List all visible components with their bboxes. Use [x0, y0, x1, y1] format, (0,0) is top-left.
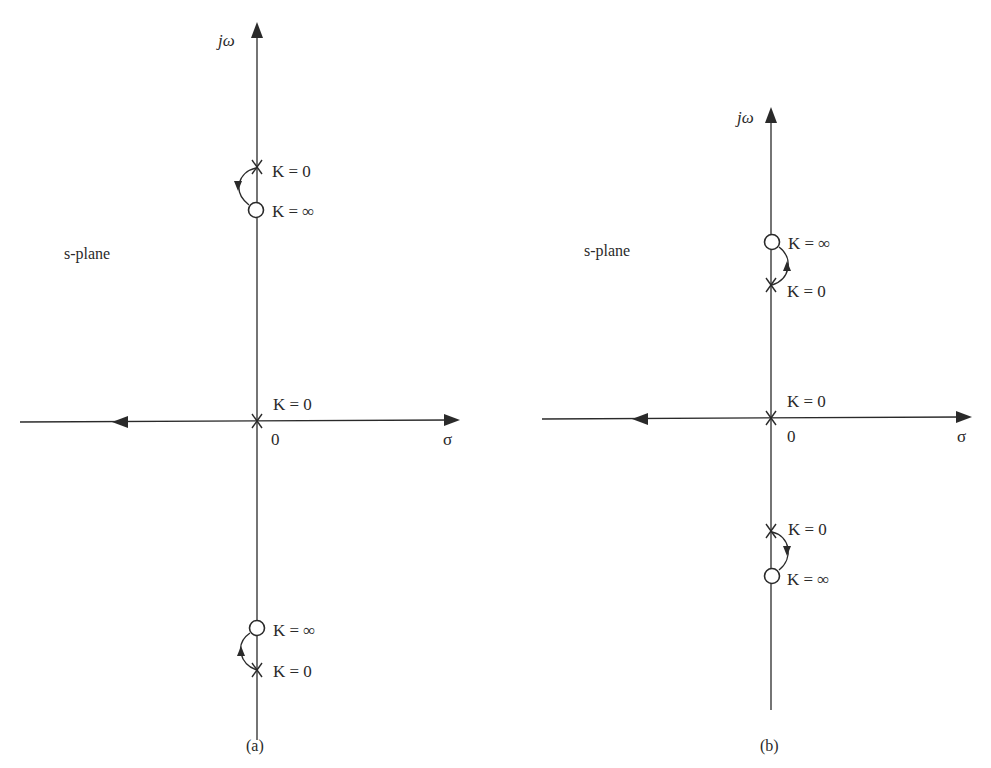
upper-pole-label: K = 0 [272, 162, 311, 181]
origin-pole-label: K = 0 [787, 392, 826, 411]
zero-marker-icon [249, 203, 264, 218]
zero-marker-icon [765, 235, 780, 250]
lower-zero-label: K = ∞ [787, 570, 829, 589]
root-locus-figure: jω σ 0 s-plane K = 0 K = 0 K = ∞ K = ∞ K… [0, 0, 991, 768]
zero-marker-icon [250, 621, 265, 636]
imag-axis-arrow-icon [765, 107, 777, 123]
locus-direction-arrow-icon [234, 181, 242, 191]
origin-pole-label: K = 0 [273, 395, 312, 414]
s-plane-label: s-plane [64, 245, 110, 263]
upper-zero-label: K = ∞ [272, 202, 314, 221]
panel-caption-b: (b) [760, 737, 779, 755]
sigma-axis-label: σ [957, 427, 966, 446]
real-axis-a [20, 420, 450, 422]
zero-marker-icon [765, 569, 780, 584]
jw-axis-label: jω [735, 108, 754, 127]
panel-caption-a: (a) [246, 737, 264, 755]
imag-axis-arrow-icon [251, 22, 263, 38]
locus-direction-arrow-icon [237, 646, 245, 656]
locus-direction-arrow-icon [632, 413, 648, 425]
locus-direction-arrow-icon [112, 416, 128, 428]
lower-pole-label: K = 0 [788, 520, 827, 539]
locus-direction-arrow-icon [783, 546, 791, 556]
real-axis-arrow-icon [956, 411, 972, 423]
jw-axis-label: jω [216, 31, 235, 50]
origin-label: 0 [271, 430, 280, 449]
sigma-axis-label: σ [443, 430, 452, 449]
locus-direction-arrow-icon [783, 261, 791, 271]
upper-zero-label: K = ∞ [788, 234, 830, 253]
lower-zero-label: K = ∞ [273, 621, 315, 640]
panel-b: jω σ 0 s-plane K = 0 K = ∞ K = 0 K = 0 K… [542, 107, 972, 755]
s-plane-label: s-plane [584, 242, 630, 260]
real-axis-arrow-icon [444, 414, 460, 426]
real-axis-b [542, 417, 962, 419]
upper-pole-label: K = 0 [787, 282, 826, 301]
locus-arc [239, 168, 256, 205]
lower-pole-label: K = 0 [273, 662, 312, 681]
panel-a: jω σ 0 s-plane K = 0 K = 0 K = ∞ K = ∞ K… [20, 22, 460, 755]
origin-label: 0 [787, 427, 796, 446]
